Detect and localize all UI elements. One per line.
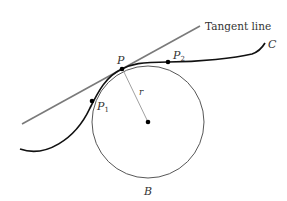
circle-center-point xyxy=(146,120,151,125)
circle-b-label: B xyxy=(144,186,152,197)
point-p-label: P xyxy=(117,55,124,66)
point-p2-label: P2 xyxy=(173,50,185,63)
point-p2-subscript: 2 xyxy=(180,55,184,63)
diagram-canvas: Tangent line C P P2 P1 r B xyxy=(0,0,287,201)
point-p2 xyxy=(166,60,171,65)
point-p xyxy=(120,67,125,72)
curve-c xyxy=(20,43,265,151)
tangent-line xyxy=(22,26,200,124)
radius-label: r xyxy=(139,88,143,97)
point-p1 xyxy=(90,99,95,104)
radius-line xyxy=(123,70,147,120)
point-p1-subscript: 1 xyxy=(104,106,108,114)
tangent-line-label: Tangent line xyxy=(205,21,271,32)
curve-c-label: C xyxy=(268,39,276,50)
point-p1-label: P1 xyxy=(97,101,109,114)
